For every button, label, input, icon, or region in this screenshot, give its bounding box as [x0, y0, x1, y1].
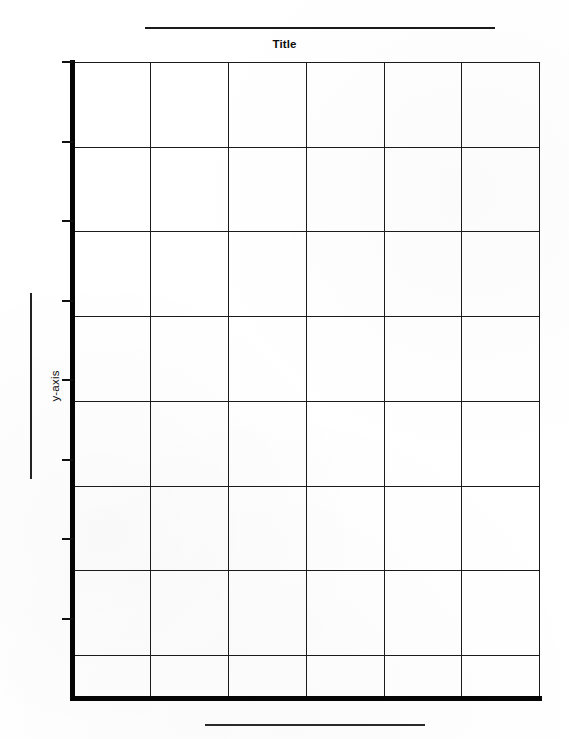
grid-cell[interactable] [306, 232, 384, 317]
grid-cell[interactable] [384, 486, 462, 571]
grid-cell[interactable] [229, 63, 307, 148]
grid-cell[interactable] [462, 63, 540, 148]
grid-cell[interactable] [462, 401, 540, 486]
graph-worksheet: Title y-axis [0, 0, 569, 739]
grid-cell[interactable] [306, 571, 384, 656]
grid-cell[interactable] [73, 486, 151, 571]
grid-table [73, 62, 540, 698]
grid-cell[interactable] [151, 401, 229, 486]
table-row [73, 571, 540, 656]
grid-cell[interactable] [73, 232, 151, 317]
table-row [73, 63, 540, 148]
grid-cell[interactable] [462, 232, 540, 317]
title-write-in-rule[interactable] [145, 27, 495, 29]
grid-cell[interactable] [462, 317, 540, 402]
table-row [73, 656, 540, 698]
table-row [73, 486, 540, 571]
grid-cell[interactable] [384, 571, 462, 656]
grid-cell[interactable] [229, 571, 307, 656]
grid-cell[interactable] [462, 656, 540, 698]
grid-body [73, 63, 540, 699]
y-axis-tick [62, 538, 73, 540]
y-axis-tick [62, 379, 73, 381]
grid-cell[interactable] [73, 571, 151, 656]
x-axis-write-in-rule[interactable] [205, 724, 425, 726]
y-axis-tick [62, 141, 73, 143]
plot-area[interactable] [73, 62, 540, 698]
grid-cell[interactable] [229, 401, 307, 486]
table-row [73, 317, 540, 402]
grid-cell[interactable] [306, 147, 384, 232]
grid-cell[interactable] [384, 656, 462, 698]
grid-cell[interactable] [462, 147, 540, 232]
table-row [73, 401, 540, 486]
grid-cell[interactable] [151, 571, 229, 656]
grid-cell[interactable] [462, 486, 540, 571]
grid-cell[interactable] [306, 656, 384, 698]
grid-cell[interactable] [151, 656, 229, 698]
grid-cell[interactable] [151, 486, 229, 571]
grid-cell[interactable] [73, 147, 151, 232]
y-axis-tick [62, 300, 73, 302]
y-axis-tick [62, 459, 73, 461]
grid-cell[interactable] [462, 571, 540, 656]
grid-cell[interactable] [306, 317, 384, 402]
grid-cell[interactable] [151, 147, 229, 232]
grid-cell[interactable] [306, 401, 384, 486]
y-axis-tick [62, 61, 73, 63]
grid-cell[interactable] [384, 317, 462, 402]
grid-cell[interactable] [73, 317, 151, 402]
grid-cell[interactable] [229, 147, 307, 232]
grid-cell[interactable] [384, 232, 462, 317]
grid-cell[interactable] [306, 486, 384, 571]
grid-cell[interactable] [384, 147, 462, 232]
y-axis-tick [62, 220, 73, 222]
y-axis-label: y-axis [49, 370, 61, 401]
grid-cell[interactable] [229, 232, 307, 317]
table-row [73, 232, 540, 317]
table-row [73, 147, 540, 232]
grid-cell[interactable] [384, 401, 462, 486]
grid-cell[interactable] [229, 656, 307, 698]
grid-cell[interactable] [151, 63, 229, 148]
y-axis-write-in-rule[interactable] [30, 293, 32, 479]
grid-cell[interactable] [151, 317, 229, 402]
grid-cell[interactable] [229, 486, 307, 571]
grid-cell[interactable] [73, 63, 151, 148]
grid-cell[interactable] [384, 63, 462, 148]
y-axis-tick [62, 618, 73, 620]
x-axis-line [70, 696, 542, 701]
page-title: Title [0, 37, 569, 51]
grid-cell[interactable] [229, 317, 307, 402]
grid-cell[interactable] [151, 232, 229, 317]
grid-cell[interactable] [73, 401, 151, 486]
grid-cell[interactable] [306, 63, 384, 148]
grid-cell[interactable] [73, 656, 151, 698]
